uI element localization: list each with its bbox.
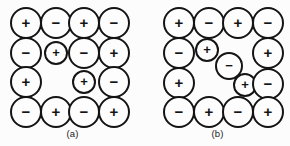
anion-circle: −: [98, 66, 130, 98]
anion-circle: −: [163, 96, 195, 128]
cation-circle: +: [10, 7, 42, 39]
cation-circle: +: [10, 66, 42, 98]
minus-icon: −: [264, 76, 273, 91]
minus-icon: −: [52, 15, 61, 30]
minus-icon: −: [110, 74, 119, 89]
plus-icon: +: [264, 104, 273, 119]
plus-icon: +: [110, 45, 119, 60]
panel-a-label: (a): [0, 128, 145, 139]
plus-icon: +: [52, 46, 60, 59]
minus-icon: −: [22, 45, 31, 60]
cation-circle: +: [163, 67, 195, 99]
plus-icon: +: [52, 104, 61, 119]
lattice-a: +−+−−+−+++−−+−+: [0, 0, 145, 125]
minus-icon: −: [175, 45, 184, 60]
minus-icon: −: [110, 15, 119, 30]
plus-icon: +: [175, 75, 184, 90]
plus-icon: +: [264, 45, 273, 60]
plus-icon: +: [80, 15, 89, 30]
plus-icon: +: [234, 15, 243, 30]
minus-icon: −: [225, 59, 233, 72]
minus-icon: −: [22, 104, 31, 119]
cation-circle: +: [163, 7, 195, 39]
cation-circle: +: [252, 96, 284, 128]
cation-circle: +: [98, 37, 130, 69]
plus-icon: +: [205, 104, 214, 119]
cation-circle: +: [222, 7, 254, 39]
anion-circle: −: [10, 37, 42, 69]
plus-icon: +: [80, 75, 88, 88]
anion-circle: −: [98, 7, 130, 39]
ionic-defect-figure: +−+−−+−+++−−+−+ (a) +−+−−+−+++−−+−+ (b): [0, 0, 290, 146]
anion-circle: −: [193, 7, 225, 39]
minus-icon: −: [80, 104, 89, 119]
panel-b: +−+−−+−+++−−+−+ (b): [145, 0, 290, 146]
plus-icon: +: [175, 15, 184, 30]
minus-icon: −: [234, 104, 243, 119]
anion-circle: −: [10, 96, 42, 128]
plus-icon: +: [241, 78, 249, 91]
plus-icon: +: [203, 43, 211, 56]
anion-circle: −: [68, 96, 100, 128]
cation-circle: +: [195, 38, 219, 62]
minus-icon: −: [264, 15, 273, 30]
anion-circle: −: [163, 37, 195, 69]
cation-circle: +: [72, 70, 96, 94]
cation-circle: +: [252, 37, 284, 69]
cation-circle: +: [68, 7, 100, 39]
cation-circle: +: [44, 41, 68, 65]
plus-icon: +: [110, 104, 119, 119]
lattice-b: +−+−−+−+++−−+−+: [145, 0, 290, 125]
plus-icon: +: [22, 15, 31, 30]
panel-b-label: (b): [145, 128, 290, 139]
plus-icon: +: [22, 74, 31, 89]
cation-circle: +: [98, 96, 130, 128]
anion-circle: −: [222, 96, 254, 128]
anion-circle: −: [68, 37, 100, 69]
minus-icon: −: [175, 104, 184, 119]
minus-icon: −: [205, 15, 214, 30]
minus-icon: −: [80, 45, 89, 60]
anion-circle: −: [252, 7, 284, 39]
cation-circle: +: [193, 96, 225, 128]
panel-a: +−+−−+−+++−−+−+ (a): [0, 0, 145, 146]
